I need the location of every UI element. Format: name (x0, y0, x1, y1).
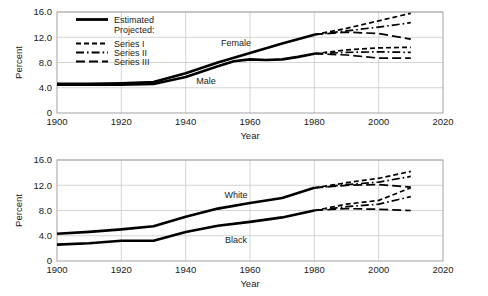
xtick-3: 1960 (239, 264, 260, 275)
ytick-2: 8.0 (39, 205, 52, 216)
xtick-1: 1920 (111, 264, 132, 275)
chart-panel-race: 0 4.0 8.0 12.0 16.0 Percent 1900 1920 19… (0, 148, 488, 296)
xtick-5: 2000 (368, 116, 389, 127)
data-curves-top (57, 13, 411, 84)
xtick-6: 2020 (432, 116, 453, 127)
series-label-white: White (224, 190, 247, 200)
curve-black-series-2 (314, 197, 411, 211)
chart-panel-sex: 0 4.0 8.0 12.0 16.0 Percent 1900 1920 19… (0, 0, 488, 148)
ytick-labels-bottom: 0 4.0 8.0 12.0 16.0 (34, 154, 53, 266)
curve-male-series-3 (314, 54, 411, 58)
xtick-4: 1980 (304, 116, 325, 127)
yaxis-title-bottom: Percent (13, 194, 24, 227)
series-label-female: Female (221, 38, 251, 48)
legend-top: Estimated Projected: Series I Series II … (76, 15, 155, 67)
figure-two-panel-chart: 0 4.0 8.0 12.0 16.0 Percent 1900 1920 19… (0, 0, 488, 296)
ytick-3: 12.0 (34, 32, 53, 43)
xtick-6: 2020 (432, 264, 453, 275)
series-label-black: Black (225, 235, 248, 245)
xaxis-title-top: Year (240, 130, 259, 141)
xtick-2: 1940 (175, 264, 196, 275)
chart-svg-top: 0 4.0 8.0 12.0 16.0 Percent 1900 1920 19… (0, 0, 488, 148)
xtick-2: 1940 (175, 116, 196, 127)
xaxis-title-bottom: Year (240, 278, 259, 289)
chart-svg-bottom: 0 4.0 8.0 12.0 16.0 Percent 1900 1920 19… (0, 148, 488, 296)
xtick-1: 1920 (111, 116, 132, 127)
data-curves-bottom (57, 171, 411, 244)
series-label-male: Male (196, 76, 216, 86)
xtick-labels-bottom: 1900 1920 1940 1960 1980 2000 2020 (46, 264, 453, 275)
curve-male-series-2 (314, 52, 411, 54)
ytick-1: 4.0 (39, 230, 52, 241)
xtick-labels-top: 1900 1920 1940 1960 1980 2000 2020 (46, 116, 453, 127)
ytick-2: 8.0 (39, 57, 52, 68)
legend-label-series-3: Series III (114, 57, 150, 67)
ytick-4: 16.0 (34, 6, 53, 17)
xtick-4: 1980 (304, 264, 325, 275)
legend-label-estimated: Estimated (114, 15, 154, 25)
curve-black-series-1 (314, 188, 411, 211)
yaxis-title-top: Percent (13, 46, 24, 79)
gridlines-bottom (57, 160, 443, 261)
ytick-4: 16.0 (34, 154, 53, 165)
ytick-3: 12.0 (34, 180, 53, 191)
xtick-5: 2000 (368, 264, 389, 275)
ytick-1: 4.0 (39, 82, 52, 93)
xtick-0: 1900 (46, 264, 67, 275)
ytick-labels-top: 0 4.0 8.0 12.0 16.0 (34, 6, 53, 118)
legend-label-projected-header: Projected: (114, 25, 155, 35)
curve-female-series-3 (314, 32, 411, 39)
xtick-3: 1960 (239, 116, 260, 127)
xtick-0: 1900 (46, 116, 67, 127)
